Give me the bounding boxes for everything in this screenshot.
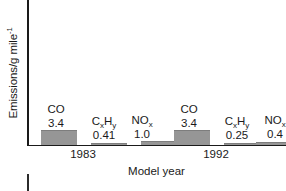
y-axis-title-container: Emissions/g mile-1 <box>0 0 26 146</box>
bar-1983-co <box>41 130 77 145</box>
bar-label-1992-co: CO 3.4 <box>164 103 214 130</box>
bar-1992-co <box>174 130 210 145</box>
bar-1983-nox <box>141 141 177 145</box>
bar-label-1992-co-value: 3.4 <box>164 117 214 131</box>
bar-label-1983-co-species: CO <box>31 103 81 117</box>
bar-1992-cxhy <box>224 143 260 145</box>
x-axis-title: Model year <box>27 165 286 177</box>
bar-label-1992-nox-species: NOx <box>249 114 286 128</box>
y-axis-title: Emissions/g mile-1 <box>7 27 19 118</box>
bar-label-1983-co-value: 3.4 <box>31 117 81 131</box>
bar-label-1992-nox-value: 0.4 <box>249 128 286 142</box>
bar-label-1983-nox-value: 1.0 <box>116 128 168 142</box>
x-axis-group-label-1992: 1992 <box>191 148 241 160</box>
bar-label-1992-co-species: CO <box>164 103 214 117</box>
bar-label-1992-nox: NOx 0.4 <box>249 114 286 141</box>
bar-1983-cxhy <box>91 143 127 145</box>
bar-label-1983-nox-species: NOx <box>116 114 168 128</box>
emissions-bar-chart: Emissions/g mile-1 CO 3.4 CxHy 0.41 NOx … <box>0 0 286 191</box>
x-axis-group-label-1983: 1983 <box>58 148 108 160</box>
y-axis-title-text: Emissions/g mile <box>7 34 19 119</box>
bar-label-1983-nox: NOx 1.0 <box>116 114 168 141</box>
bar-1992-nox <box>256 142 286 145</box>
bar-label-1983-co: CO 3.4 <box>31 103 81 130</box>
y-axis-title-exponent: -1 <box>5 27 14 33</box>
